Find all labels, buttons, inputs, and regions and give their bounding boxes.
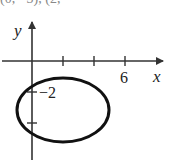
ellipse-diagram: y x 6 −2 — [0, 0, 172, 164]
y-tick-label-neg2: −2 — [39, 84, 56, 101]
ellipse-curve — [17, 78, 109, 142]
x-tick-label-6: 6 — [120, 69, 128, 86]
x-axis-label: x — [152, 67, 161, 86]
y-axis-label: y — [12, 21, 22, 40]
